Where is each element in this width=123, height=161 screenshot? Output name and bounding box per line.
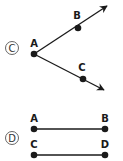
point-c-label: C <box>78 62 85 73</box>
point-a-dot <box>31 51 38 58</box>
point-c-dot <box>31 152 38 159</box>
option-d-label: D <box>8 133 16 144</box>
point-c-label: C <box>30 139 37 150</box>
ray-ac <box>34 54 104 90</box>
point-a-label: A <box>30 38 38 49</box>
figure-d: D A B C D <box>6 113 110 158</box>
geometry-diagram: C A B C D A B C D <box>0 0 123 161</box>
point-c-dot <box>80 76 87 83</box>
point-b-dot <box>102 126 109 133</box>
point-d-label: D <box>101 139 109 150</box>
point-b-dot <box>75 25 82 32</box>
point-b-label: B <box>101 113 109 124</box>
ray-ab <box>34 6 107 54</box>
point-a-label: A <box>30 113 38 124</box>
point-d-dot <box>102 152 109 159</box>
option-c-label: C <box>9 43 16 54</box>
point-a-dot <box>31 126 38 133</box>
point-b-label: B <box>73 10 81 21</box>
figure-c: C A B C <box>6 6 108 90</box>
